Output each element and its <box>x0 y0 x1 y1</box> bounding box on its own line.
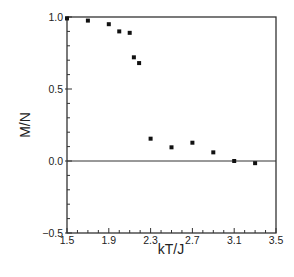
chart: 1.51.92.32.73.13.5 −0.50.00.51.0 kT/J M/… <box>0 0 294 277</box>
data-point-marker <box>107 22 111 26</box>
y-tick-label: −0.5 <box>42 227 63 239</box>
data-points <box>65 16 257 165</box>
data-point-marker <box>132 55 136 59</box>
data-point-marker <box>253 161 257 165</box>
y-tick-label: 0.5 <box>48 83 63 95</box>
x-tick-label: 3.5 <box>269 234 284 246</box>
data-point-marker <box>128 31 132 35</box>
data-point-marker <box>137 61 141 65</box>
x-tick-label: 2.7 <box>185 234 200 246</box>
data-point-marker <box>117 29 121 33</box>
y-tick-label: 0.0 <box>48 155 63 167</box>
x-tick-label: 2.3 <box>143 234 158 246</box>
x-axis-ticks <box>67 228 276 233</box>
data-point-marker <box>211 150 215 154</box>
x-tick-label: 1.9 <box>101 234 116 246</box>
data-point-marker <box>86 19 90 23</box>
data-point-marker <box>65 16 69 20</box>
y-tick-label: 1.0 <box>48 11 63 23</box>
data-point-marker <box>149 137 153 141</box>
y-axis-tick-labels: −0.50.00.51.0 <box>42 11 63 239</box>
data-point-marker <box>170 145 174 149</box>
y-axis-title: M/N <box>17 112 33 138</box>
plot-frame <box>67 17 276 233</box>
x-tick-label: 3.1 <box>227 234 242 246</box>
x-axis-title: kT/J <box>158 241 184 257</box>
data-point-marker <box>232 159 236 163</box>
plot-border <box>67 17 276 233</box>
data-point-marker <box>190 141 194 145</box>
y-axis-ticks <box>65 17 72 233</box>
